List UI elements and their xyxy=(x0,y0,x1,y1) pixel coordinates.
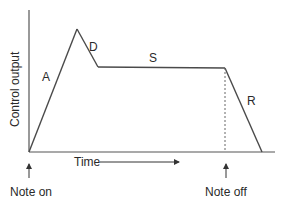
y-axis-label: Control output xyxy=(8,51,22,127)
attack-segment xyxy=(29,29,77,152)
decay-label: D xyxy=(89,40,98,54)
sustain-label: S xyxy=(149,51,157,65)
note-off-label: Note off xyxy=(205,185,247,199)
release-segment xyxy=(225,68,262,152)
attack-label: A xyxy=(42,70,50,84)
release-label: R xyxy=(247,94,256,108)
adsr-diagram: A D S R Control output Time Note on Note… xyxy=(0,0,283,204)
x-axis-label: Time xyxy=(74,155,101,169)
note-on-label: Note on xyxy=(10,185,52,199)
sustain-segment xyxy=(98,67,225,68)
